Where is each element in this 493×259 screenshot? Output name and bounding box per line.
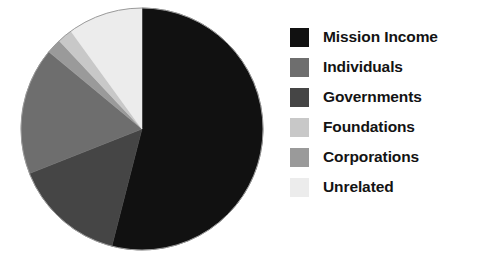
- legend-label-mission-income: Mission Income: [323, 29, 438, 45]
- legend-label-individuals: Individuals: [323, 59, 403, 75]
- pie-chart-figure: Mission Income Individuals Governments F…: [0, 0, 493, 259]
- legend-label-governments: Governments: [323, 89, 422, 105]
- legend-item-foundations[interactable]: Foundations: [290, 112, 490, 142]
- legend-swatch-unrelated: [290, 178, 309, 197]
- pie-chart-plot-area: [0, 0, 285, 259]
- legend-swatch-individuals: [290, 58, 309, 77]
- legend-item-corporations[interactable]: Corporations: [290, 142, 490, 172]
- legend-swatch-governments: [290, 88, 309, 107]
- legend-label-unrelated: Unrelated: [323, 179, 394, 195]
- pie-slice-group: [21, 8, 263, 250]
- legend-item-mission-income[interactable]: Mission Income: [290, 22, 490, 52]
- legend-swatch-foundations: [290, 118, 309, 137]
- chart-legend: Mission Income Individuals Governments F…: [290, 22, 490, 202]
- legend-label-corporations: Corporations: [323, 149, 419, 165]
- legend-swatch-corporations: [290, 148, 309, 167]
- legend-item-governments[interactable]: Governments: [290, 82, 490, 112]
- legend-label-foundations: Foundations: [323, 119, 415, 135]
- pie-chart-svg: [0, 0, 285, 259]
- legend-swatch-mission-income: [290, 28, 309, 47]
- legend-item-unrelated[interactable]: Unrelated: [290, 172, 490, 202]
- legend-item-individuals[interactable]: Individuals: [290, 52, 490, 82]
